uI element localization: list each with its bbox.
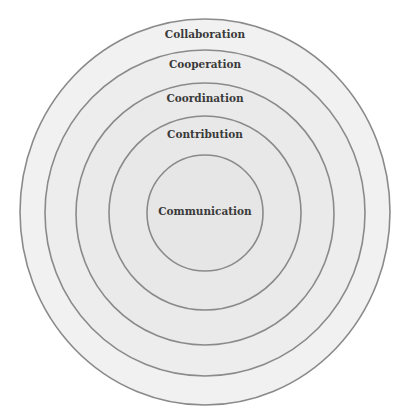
ring-label-communication: Communication <box>158 205 252 217</box>
ring-label-coordination: Coordination <box>166 92 244 104</box>
concentric-circles-diagram: CollaborationCooperationCoordinationCont… <box>0 0 407 419</box>
ring-label-cooperation: Cooperation <box>169 58 242 70</box>
ring-label-collaboration: Collaboration <box>165 28 246 40</box>
ring-label-contribution: Contribution <box>167 128 243 140</box>
